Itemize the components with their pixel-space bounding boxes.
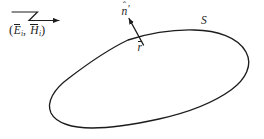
r-vector-symbol: r [137,42,142,54]
e-field-symbol: E [13,25,21,37]
circumflex-accent-icon: ˆ [123,1,126,11]
r-overbar [138,41,141,42]
closed-surface-outline [50,30,249,128]
n-hat-symbol: ˆn [121,6,128,18]
e-overbar [14,24,20,25]
incident-close-paren: ) [41,23,45,37]
incident-comma: , [23,24,30,36]
h-letter: H [30,24,38,36]
e-letter: E [14,24,21,36]
normal-vector-label: ˆn′ [121,4,130,17]
diagram-canvas [0,0,264,139]
h-overbar [30,24,37,25]
position-vector-label: r [137,42,142,54]
normal-prime-mark: ′ [128,3,130,14]
h-field-symbol: H [30,25,39,37]
incident-field-label: (Ei, Hi) [9,24,45,37]
surface-label: S [201,15,207,27]
r-letter: r [138,41,142,53]
figure-container: (Ei, Hi) ˆn′ r S [0,0,264,139]
incident-wave-ray-path [12,12,59,21]
